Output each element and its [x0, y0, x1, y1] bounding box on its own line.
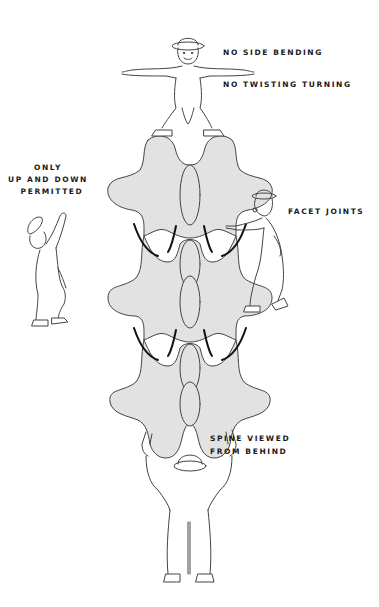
spine-illustration [0, 0, 379, 607]
label-no-twisting-turning: NO TWISTING TURNING [223, 80, 352, 90]
label-no-side-bending: NO SIDE BENDING [223, 48, 323, 58]
label-permitted: PERMITTED [12, 187, 92, 197]
vertebra-2 [108, 236, 272, 342]
label-from-behind: FROM BEHIND [210, 447, 287, 457]
label-facet-joints: FACET JOINTS [288, 207, 364, 217]
label-up-and-down: UP AND DOWN [8, 175, 88, 185]
spine-diagram: NO SIDE BENDING NO TWISTING TURNING ONLY… [0, 0, 379, 607]
label-spine-viewed: SPINE VIEWED [210, 434, 290, 444]
label-only: ONLY [8, 163, 88, 173]
left-figure [28, 213, 68, 326]
